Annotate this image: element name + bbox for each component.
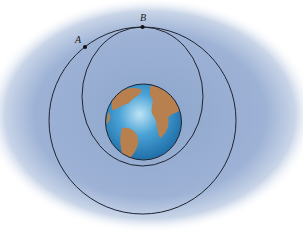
point-b-label: B	[140, 12, 146, 23]
point-a-label: A	[75, 34, 81, 45]
orbit-diagram	[0, 0, 303, 237]
point-a-marker	[83, 45, 87, 49]
point-b-marker	[141, 25, 145, 29]
